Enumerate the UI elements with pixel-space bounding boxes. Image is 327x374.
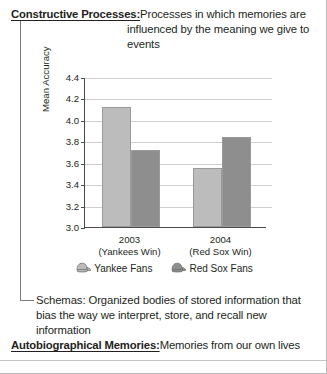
chart-y-tick-mark: [81, 207, 85, 208]
legend-label: Yankee Fans: [94, 263, 152, 274]
chart-x-group-label: 2004(Red Sox Win): [171, 234, 271, 257]
chart-gridline: [85, 99, 272, 100]
chart-x-sublabel: (Yankees Win): [80, 246, 180, 258]
legend-item: Red Sox Fans: [170, 262, 252, 275]
chart-bar: [222, 137, 251, 227]
chart-x-year: 2004: [171, 234, 271, 246]
chart-x-year: 2003: [80, 234, 180, 246]
legend-item: Yankee Fans: [75, 262, 152, 275]
slide-page: Constructive Processes: Processes in whi…: [0, 0, 327, 374]
definition-term-autobiographical-memories: Autobiographical Memories:: [11, 339, 160, 351]
chart-y-tick-mark: [81, 185, 85, 186]
chart-y-tick-label: 3.2: [66, 202, 79, 212]
definition-body-autobiographical-memories: Memories from our own lives: [160, 339, 300, 351]
chart-plot-area: 3.03.23.43.63.84.04.24.4: [84, 78, 266, 228]
baseball-cap-icon: [75, 262, 91, 275]
definition-constructive-processes: Constructive Processes: Processes in whi…: [11, 7, 319, 53]
chart-y-tick-mark: [81, 164, 85, 165]
chart-y-tick-mark: [81, 121, 85, 122]
chart-legend: Yankee FansRed Sox Fans: [44, 262, 284, 275]
chart-y-tick-label: 4.4: [66, 73, 79, 83]
baseball-cap-icon: [170, 262, 186, 275]
chart-y-tick-mark: [81, 78, 85, 79]
definition-term-constructive-processes: Constructive Processes:: [11, 7, 140, 21]
chart-y-tick-label: 4.2: [66, 95, 79, 105]
chart-y-tick-label: 3.8: [66, 137, 79, 147]
definition-schemas: Schemas: Organized bodies of stored info…: [36, 293, 311, 339]
bracket-horizontal-line: [20, 300, 34, 301]
chart-bar: [131, 150, 160, 227]
chart-y-tick-label: 3.0: [66, 223, 79, 233]
chart-x-group-label: 2003(Yankees Win): [80, 234, 180, 257]
bar-chart: Mean Accuracy 3.03.23.43.63.84.04.24.4 2…: [44, 70, 284, 285]
definition-autobiographical-memories: Autobiographical Memories:Memories from …: [11, 338, 319, 352]
chart-y-tick-label: 3.4: [66, 180, 79, 190]
chart-y-tick-label: 4.0: [66, 116, 79, 126]
bottom-divider: [0, 360, 327, 361]
bracket-vertical-line: [20, 21, 21, 301]
chart-y-axis-label: Mean Accuracy: [40, 46, 51, 112]
chart-y-tick-mark: [81, 228, 85, 229]
legend-label: Red Sox Fans: [189, 263, 252, 274]
chart-y-tick-mark: [81, 142, 85, 143]
definition-body-constructive-processes: Processes in which memories are influenc…: [127, 7, 319, 53]
chart-bar: [102, 107, 131, 227]
chart-x-sublabel: (Red Sox Win): [171, 246, 271, 258]
chart-y-tick-mark: [81, 99, 85, 100]
chart-bar: [193, 168, 222, 227]
chart-y-tick-label: 3.6: [66, 159, 79, 169]
chart-gridline: [85, 78, 272, 79]
